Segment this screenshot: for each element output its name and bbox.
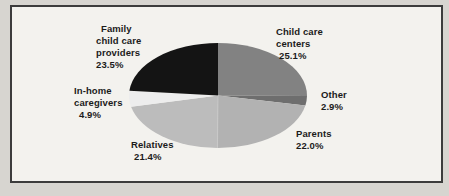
label-line: providers [96,47,141,59]
label-value: 22.0% [296,140,332,152]
label-line: Other [321,89,347,101]
pie-slice-family-child-care-providers [129,43,218,96]
slice-divider [217,96,218,149]
label-in-home-caregivers: In-home caregivers 4.9% [74,85,123,121]
label-line: child care [96,35,141,47]
label-line: Relatives [131,139,174,151]
label-value: 23.5% [96,59,141,71]
label-line: Child care [276,26,323,38]
label-line: caregivers [74,97,123,109]
scanned-page: Family child care providers 23.5% Child … [0,0,449,196]
label-value: 21.4% [131,151,174,163]
label-line: In-home [74,85,123,97]
label-value: 2.9% [321,101,347,113]
label-relatives: Relatives 21.4% [131,139,174,163]
label-child-care-centers: Child care centers 25.1% [276,26,323,62]
label-line: Family [96,23,141,35]
label-line: centers [276,38,323,50]
label-value: 4.9% [74,109,123,121]
label-other: Other 2.9% [321,89,347,113]
label-family-child-care-providers: Family child care providers 23.5% [96,23,141,71]
pie-chart [0,0,449,196]
label-parents: Parents 22.0% [296,128,332,152]
label-value: 25.1% [276,50,323,62]
label-line: Parents [296,128,332,140]
